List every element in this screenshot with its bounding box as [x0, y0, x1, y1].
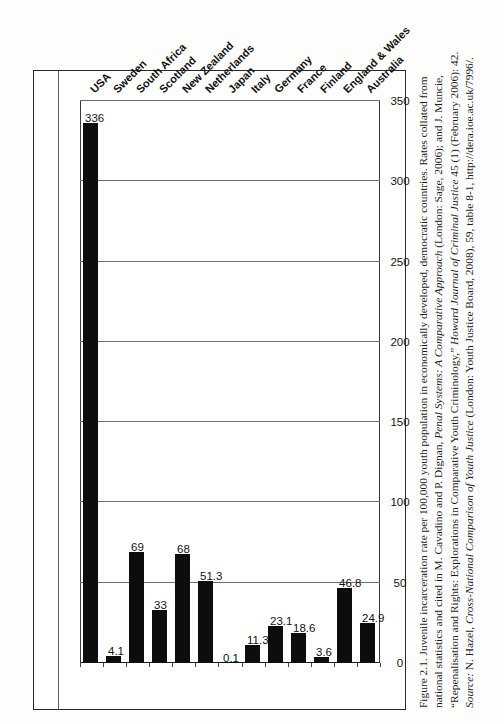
category-tick [380, 663, 381, 667]
bar-value-label: 4.1 [108, 645, 124, 657]
value-tick-label-50: 50 [386, 577, 414, 589]
bar-sweden [106, 656, 121, 663]
bar-value-label: 23.1 [270, 615, 292, 627]
caption-line-2-text-a: national statistics and cited in M. Cava… [432, 439, 444, 708]
category-tick [218, 663, 219, 667]
bar-row: 3.6 [311, 101, 332, 663]
caption-line-4-text-a: N. Hazel, [463, 624, 475, 673]
caption-line-4-text-b: (London: Youth Justice Board, 2008), 59,… [463, 57, 475, 420]
bar-value-label: 11.3 [247, 634, 269, 646]
figure-caption: Figure 2.1. Juvenile incarceration rate … [416, 18, 478, 708]
caption-line-2: national statistics and cited in M. Cava… [431, 18, 446, 708]
bar-germany [268, 626, 283, 663]
caption-line-2-text-b: (London: Sage, 2006); and J. Muncie, [432, 75, 444, 251]
book-page: 24.946.83.618.623.111.30.151.36833694.13… [0, 0, 504, 724]
bar-row: 336 [80, 101, 101, 663]
bar-row: 69 [126, 101, 147, 663]
category-tick [265, 663, 266, 667]
bar-row: 46.8 [334, 101, 355, 663]
frame-divider-rule [58, 71, 59, 709]
caption-source-label: Source: [463, 673, 475, 708]
caption-line-1: Figure 2.1. Juvenile incarceration rate … [416, 18, 431, 708]
bar-row: 23.1 [265, 101, 286, 663]
bar-row: 18.6 [288, 101, 309, 663]
bar-value-label: 336 [85, 112, 104, 124]
value-tick-label-0: 0 [386, 657, 414, 669]
category-axis-line [379, 101, 380, 663]
bar-scotland [152, 610, 167, 663]
category-tick [334, 663, 335, 667]
category-tick [103, 663, 104, 667]
category-label-usa: USA [87, 70, 112, 95]
category-tick [195, 663, 196, 667]
caption-line-3-journal: Howard Journal of Criminal Justice [448, 180, 460, 345]
value-tick-label-100: 100 [386, 496, 414, 508]
category-tick [311, 663, 312, 667]
caption-line-4-title: Cross-National Comparison of Youth Justi… [463, 420, 475, 624]
bar-value-label: 69 [131, 541, 144, 553]
caption-line-2-title: Penal Systems: A Comparative Approach [432, 251, 444, 439]
caption-line-4: Source: N. Hazel, Cross-National Compari… [462, 18, 477, 708]
caption-line-1-text: Figure 2.1. Juvenile incarceration rate … [417, 76, 429, 708]
bar-row: 33 [149, 101, 170, 663]
bar-row: 68 [172, 101, 193, 663]
chart-plot-area: 24.946.83.618.623.111.30.151.36833694.13… [80, 101, 380, 663]
bar-italy [245, 645, 260, 663]
bar-value-label: 3.6 [316, 646, 332, 658]
caption-line-3-text-b: 45 (1) (February 2006): 42. [448, 52, 460, 180]
bar-value-label: 18.6 [293, 622, 315, 634]
bar-finland [314, 657, 329, 663]
figure-frame: 24.946.83.618.623.111.30.151.36833694.13… [33, 70, 406, 710]
category-tick [126, 663, 127, 667]
bar-value-label: 0.1 [223, 652, 239, 664]
value-tick-label-350: 350 [386, 95, 414, 107]
category-tick [288, 663, 289, 667]
value-tick-label-150: 150 [386, 416, 414, 428]
category-tick [357, 663, 358, 667]
caption-line-3-text-a: “Repenalisation and Rights: Explorations… [448, 345, 460, 708]
bar-france [291, 633, 306, 663]
bar-australia [360, 623, 375, 663]
category-tick [242, 663, 243, 667]
bar-row: 4.1 [103, 101, 124, 663]
bar-value-label: 33 [154, 599, 167, 611]
bar-value-label: 46.8 [339, 577, 361, 589]
bar-row: 11.3 [242, 101, 263, 663]
figure-sheet: 24.946.83.618.623.111.30.151.36833694.13… [0, 0, 504, 724]
category-tick [149, 663, 150, 667]
bar-new-zealand [175, 554, 190, 663]
bar-value-label: 24.9 [362, 612, 384, 624]
caption-line-3: “Repenalisation and Rights: Explorations… [447, 18, 462, 708]
bar-netherlands [198, 581, 213, 663]
bar-england-wales [337, 588, 352, 663]
bar-value-label: 51.3 [200, 570, 222, 582]
bar-usa [83, 123, 98, 663]
bar-south-africa [129, 552, 144, 663]
bar-value-label: 68 [177, 543, 190, 555]
category-tick [80, 663, 81, 667]
bar-row: 51.3 [195, 101, 216, 663]
value-tick-label-250: 250 [386, 256, 414, 268]
value-tick-label-200: 200 [386, 336, 414, 348]
category-tick [172, 663, 173, 667]
value-tick-label-300: 300 [386, 175, 414, 187]
